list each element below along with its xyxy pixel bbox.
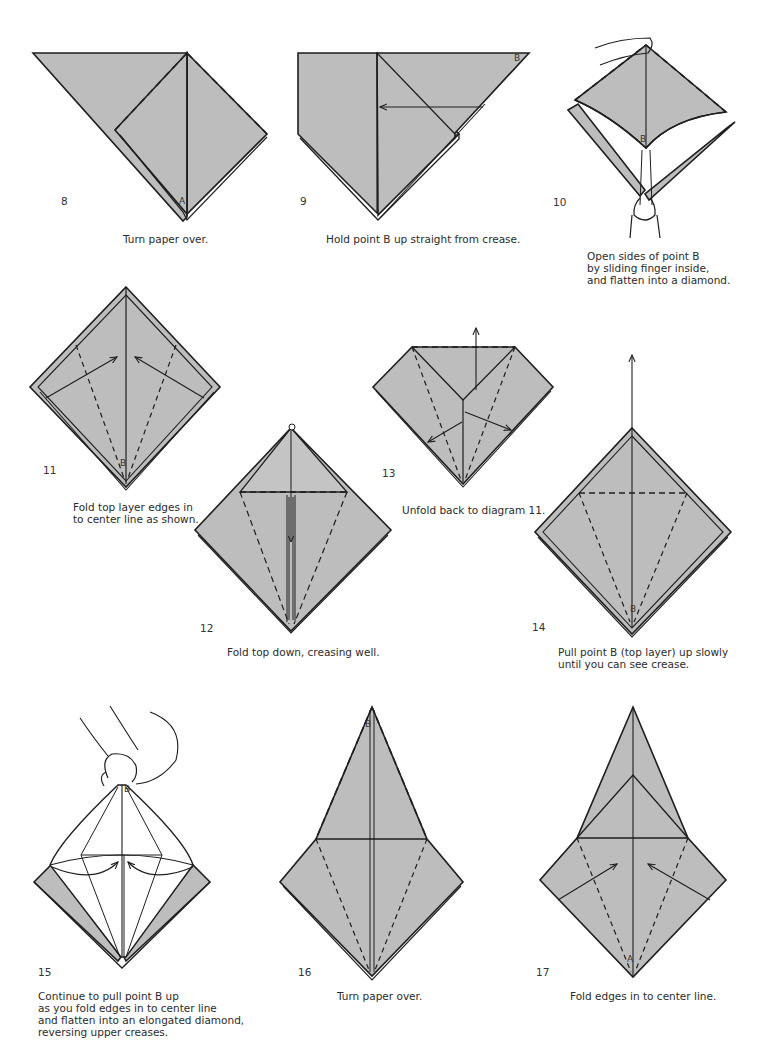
- step-caption: Unfold back to diagram 11.: [402, 504, 545, 516]
- diagram-step-16: [280, 707, 463, 980]
- step-number: 17: [536, 966, 549, 978]
- diagram-step-14: [535, 355, 731, 637]
- step-number: 16: [298, 966, 311, 978]
- step-caption: Pull point B (top layer) up slowly until…: [558, 646, 728, 670]
- step-caption: Turn paper over.: [123, 233, 208, 245]
- step-number: 11: [43, 464, 56, 476]
- diagram-step-12: [195, 424, 391, 633]
- step-caption: Fold top down, creasing well.: [227, 646, 380, 658]
- step-number: 10: [553, 196, 566, 208]
- diagram-step-17: [540, 707, 726, 977]
- step-caption: Fold top layer edges in to center line a…: [73, 501, 199, 525]
- step-number: 14: [532, 621, 545, 633]
- step-caption: Continue to pull point B up as you fold …: [38, 990, 244, 1038]
- point-label-b: B: [514, 53, 520, 63]
- point-label-a: A: [179, 196, 185, 206]
- diagram-step-8: [33, 53, 267, 221]
- point-label-b: B: [640, 134, 646, 144]
- diagram-step-10: [568, 38, 735, 238]
- step-number: 13: [382, 467, 395, 479]
- diagram-step-13: [373, 328, 553, 487]
- point-label-b: B: [120, 458, 126, 468]
- point-label-b: B: [124, 784, 130, 794]
- step-caption: Fold edges in to center line.: [570, 990, 716, 1002]
- diagram-step-9: [298, 53, 529, 220]
- diagram-step-15: [34, 706, 210, 968]
- step-number: 12: [200, 622, 213, 634]
- step-caption: Hold point B up straight from crease.: [326, 233, 520, 245]
- point-label-b: B: [630, 604, 636, 614]
- step-caption: Open sides of point B by sliding finger …: [587, 250, 730, 286]
- point-label-b: B: [365, 719, 371, 729]
- step-number: 15: [38, 966, 51, 978]
- point-label-a: A: [627, 954, 633, 964]
- step-number: 9: [300, 195, 307, 207]
- step-caption: Turn paper over.: [337, 990, 422, 1002]
- step-number: 8: [61, 195, 68, 207]
